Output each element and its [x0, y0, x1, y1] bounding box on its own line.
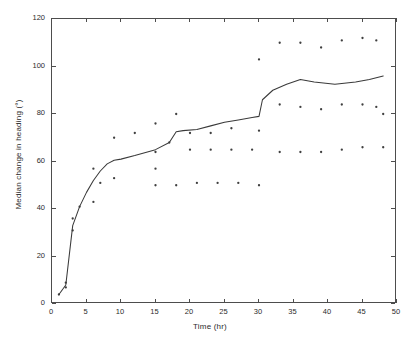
x-tick-label: 50: [381, 307, 411, 317]
x-tick: [189, 299, 190, 303]
scatter-point: [134, 132, 136, 134]
x-tick-label: 0: [36, 307, 66, 317]
x-axis-title: Time (hr): [0, 322, 420, 331]
scatter-point: [72, 217, 74, 219]
y-tick-label: 80: [19, 108, 45, 118]
y-tick-right: [391, 256, 395, 257]
x-tick-top: [224, 18, 225, 22]
x-tick-top: [155, 18, 156, 22]
scatter-point: [92, 201, 94, 203]
scatter-point: [320, 108, 322, 110]
scatter-point: [196, 182, 198, 184]
x-tick: [120, 299, 121, 303]
scatter-point: [113, 137, 115, 139]
y-tick-label: 40: [19, 203, 45, 213]
x-tick-label: 40: [312, 307, 342, 317]
x-tick-label: 20: [174, 307, 204, 317]
x-tick-top: [327, 18, 328, 22]
scatter-point: [99, 182, 101, 184]
scatter-point: [320, 46, 322, 48]
y-tick: [52, 256, 56, 257]
x-tick-top: [396, 18, 397, 22]
scatter-point: [210, 148, 212, 150]
x-tick-top: [86, 18, 87, 22]
scatter-point: [154, 122, 156, 124]
scatter-point: [251, 148, 253, 150]
y-tick-label: 0: [19, 298, 45, 308]
scatter-point: [154, 184, 156, 186]
x-tick-label: 25: [209, 307, 239, 317]
scatter-point: [320, 151, 322, 153]
y-tick: [52, 303, 56, 304]
x-tick: [293, 299, 294, 303]
y-tick-right: [391, 303, 395, 304]
scatter-point: [154, 151, 156, 153]
scatter-point: [258, 129, 260, 131]
scatter-point: [375, 106, 377, 108]
scatter-point: [92, 167, 94, 169]
y-axis-title: Median change in heading (°): [14, 55, 23, 255]
scatter-point: [216, 182, 218, 184]
scatter-point: [175, 184, 177, 186]
scatter-point: [189, 148, 191, 150]
y-tick-right: [391, 66, 395, 67]
x-tick-top: [120, 18, 121, 22]
x-tick-label: 45: [347, 307, 377, 317]
scatter-point: [279, 151, 281, 153]
scatter-point: [382, 146, 384, 148]
x-tick: [224, 299, 225, 303]
scatter-series: [58, 37, 385, 296]
scatter-point: [361, 103, 363, 105]
y-tick: [52, 208, 56, 209]
scatter-point: [341, 103, 343, 105]
plot-area: [51, 18, 396, 303]
scatter-point: [113, 177, 115, 179]
x-tick-label: 35: [278, 307, 308, 317]
y-tick-label: 60: [19, 156, 45, 166]
y-tick: [52, 18, 56, 19]
x-tick-label: 30: [243, 307, 273, 317]
x-tick: [327, 299, 328, 303]
scatter-point: [279, 103, 281, 105]
y-tick-right: [391, 161, 395, 162]
scatter-point: [230, 127, 232, 129]
x-tick: [155, 299, 156, 303]
x-tick: [258, 299, 259, 303]
scatter-point: [154, 167, 156, 169]
x-tick-label: 5: [71, 307, 101, 317]
scatter-point: [258, 184, 260, 186]
y-tick-label: 20: [19, 251, 45, 261]
scatter-point: [361, 37, 363, 39]
y-tick-right: [391, 208, 395, 209]
x-tick-top: [189, 18, 190, 22]
y-tick-right: [391, 113, 395, 114]
scatter-point: [258, 58, 260, 60]
scatter-point: [341, 148, 343, 150]
x-tick: [362, 299, 363, 303]
scatter-point: [361, 146, 363, 148]
y-tick: [52, 66, 56, 67]
y-tick-right: [391, 18, 395, 19]
y-tick: [52, 113, 56, 114]
x-tick: [86, 299, 87, 303]
scatter-point: [210, 132, 212, 134]
scatter-point: [230, 148, 232, 150]
scatter-point: [189, 132, 191, 134]
scatter-point: [382, 113, 384, 115]
x-tick-top: [293, 18, 294, 22]
x-tick-label: 15: [140, 307, 170, 317]
scatter-point: [375, 39, 377, 41]
y-tick-label: 120: [19, 13, 45, 23]
y-tick: [52, 161, 56, 162]
scatter-point: [279, 42, 281, 44]
median-line-series: [59, 76, 383, 295]
x-tick-top: [258, 18, 259, 22]
scatter-point: [175, 113, 177, 115]
scatter-point: [341, 39, 343, 41]
scatter-point: [299, 106, 301, 108]
x-tick-top: [362, 18, 363, 22]
scatter-point: [237, 182, 239, 184]
chart-figure: 05101520253035404550 020406080100120 Tim…: [0, 0, 420, 345]
scatter-point: [299, 42, 301, 44]
scatter-point: [299, 151, 301, 153]
